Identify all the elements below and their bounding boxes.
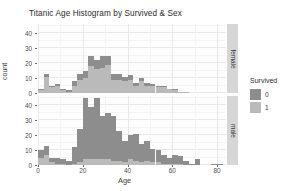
x-axis-tick-label: 0 (28, 167, 48, 174)
histogram-bar-died (195, 159, 201, 165)
histogram-bar-survived (183, 92, 189, 94)
facet-strip-label: female (229, 49, 236, 68)
gridline-vertical (217, 24, 218, 93)
y-axis-tick-mark (35, 78, 37, 79)
y-axis-tick-label: 0 (8, 90, 32, 97)
x-axis-tick-mark (128, 165, 129, 167)
y-axis-tick-mark (35, 63, 37, 64)
legend-title: Survived (250, 77, 277, 84)
facet-panel-female (38, 24, 226, 93)
page-title: Titanic Age Histogram by Survived & Sex (29, 9, 182, 18)
legend-label: 0 (265, 91, 269, 98)
legend-swatch (250, 89, 261, 100)
gridline-horizontal-minor (38, 97, 226, 98)
x-axis-tick-mark (217, 165, 218, 167)
histogram-bar-died (55, 84, 61, 86)
x-axis-tick-mark (172, 165, 173, 167)
facet-strip-male: male (227, 96, 238, 165)
y-axis-tick-mark (35, 93, 37, 94)
histogram-bar-died (172, 89, 178, 91)
y-axis-tick-mark (35, 48, 37, 49)
x-axis-tick-label: 20 (73, 167, 93, 174)
legend: Survived 01 (250, 77, 277, 114)
histogram-bar-died (44, 74, 50, 77)
gridline-vertical-minor (150, 24, 151, 93)
gridline-horizontal-minor (38, 25, 226, 26)
chart-canvas: Titanic Age Histogram by Survived & Sex … (0, 0, 295, 191)
gridline-horizontal-minor (38, 127, 226, 128)
legend-item: 0 (250, 88, 277, 100)
gridline-horizontal-minor (38, 112, 226, 113)
facet-panel-male (38, 96, 226, 165)
gridline-horizontal-minor (38, 70, 226, 71)
x-axis-tick-label: 80 (207, 167, 227, 174)
y-axis-tick-mark (35, 120, 37, 121)
legend-swatch (250, 102, 261, 113)
facet-strip-female: female (227, 24, 238, 93)
y-axis-tick-label: 20 (8, 132, 32, 139)
histogram-bar-died (161, 86, 167, 88)
legend-items: 01 (250, 88, 277, 113)
gridline-vertical-minor (195, 24, 196, 93)
x-axis-tick-mark (38, 165, 39, 167)
legend-label: 1 (265, 104, 269, 111)
gridline-horizontal (38, 32, 226, 33)
gridline-vertical (38, 24, 39, 93)
gridline-horizontal-minor (38, 55, 226, 56)
y-axis-tick-label: 30 (8, 117, 32, 124)
y-axis-tick-label: 10 (8, 75, 32, 82)
y-axis-tick-mark (35, 135, 37, 136)
x-axis-tick-label: 60 (162, 167, 182, 174)
y-axis-tick-label: 10 (8, 147, 32, 154)
gridline-horizontal (38, 62, 226, 63)
y-axis-tick-mark (35, 33, 37, 34)
facet-strip-label: male (229, 124, 236, 138)
y-axis-tick-mark (35, 150, 37, 151)
y-axis-tick-label: 30 (8, 45, 32, 52)
y-axis-tick-label: 20 (8, 60, 32, 67)
x-axis-tick-mark (83, 165, 84, 167)
y-axis-title: count (1, 63, 8, 80)
x-axis-tick-label: 40 (118, 167, 138, 174)
gridline-vertical (217, 96, 218, 165)
gridline-horizontal (38, 104, 226, 105)
y-axis-tick-label: 40 (8, 30, 32, 37)
gridline-vertical-minor (195, 96, 196, 165)
gridline-horizontal (38, 47, 226, 48)
histogram-bar-died (105, 56, 111, 65)
y-axis-tick-label: 40 (8, 102, 32, 109)
histogram-bar-died (128, 75, 134, 80)
gridline-vertical-minor (60, 24, 61, 93)
histogram-bar-died (139, 78, 145, 81)
gridline-horizontal (38, 119, 226, 120)
gridline-vertical-minor (60, 96, 61, 165)
legend-item: 1 (250, 101, 277, 113)
x-axis-title: Age (118, 176, 131, 185)
histogram-bar-died (44, 146, 50, 155)
y-axis-tick-mark (35, 105, 37, 106)
y-axis-tick-mark (35, 165, 37, 166)
gridline-vertical (172, 24, 173, 93)
gridline-horizontal-minor (38, 40, 226, 41)
